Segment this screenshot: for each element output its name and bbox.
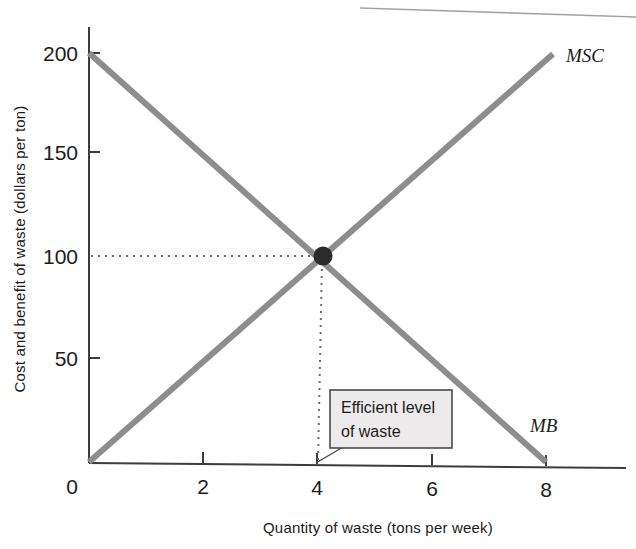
- callout-leader-line: [316, 447, 343, 463]
- y-tick-label-50: 50: [55, 347, 78, 370]
- efficient-level-callout-box: Efficient level of waste: [330, 390, 452, 448]
- callout-line-2: of waste: [341, 423, 401, 440]
- y-axis-ticks: [89, 53, 100, 358]
- x-tick-label-4: 4: [311, 476, 323, 499]
- y-tick-label-0: 0: [66, 475, 78, 498]
- x-axis-title: Quantity of waste (tons per week): [263, 519, 493, 536]
- y-tick-label-200: 200: [43, 42, 78, 65]
- economics-chart-figure: Efficient level of waste MSC MB 200 150 …: [0, 0, 636, 549]
- x-tick-label-2: 2: [197, 475, 209, 498]
- efficient-point-marker: [314, 247, 333, 266]
- vertical-guide-dotted: [318, 262, 322, 462]
- scan-page-edge: [360, 8, 636, 17]
- y-tick-label-150: 150: [43, 141, 78, 164]
- chart-canvas: Efficient level of waste MSC MB 200 150 …: [0, 0, 636, 549]
- x-tick-label-8: 8: [540, 478, 552, 501]
- y-axis-title: Cost and benefit of waste (dollars per t…: [11, 105, 28, 392]
- callout-line-1: Efficient level: [341, 399, 435, 416]
- msc-curve-label: MSC: [565, 45, 604, 66]
- mb-curve-label: MB: [529, 415, 558, 436]
- x-tick-label-6: 6: [426, 477, 438, 500]
- y-tick-label-100: 100: [43, 245, 78, 268]
